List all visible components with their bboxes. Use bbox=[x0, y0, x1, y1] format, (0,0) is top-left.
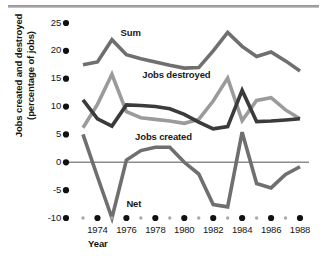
series-lines bbox=[83, 32, 300, 218]
series-label-jobs-created: Jobs created bbox=[135, 131, 192, 142]
x-axis-title: Year bbox=[88, 238, 108, 249]
y-tick-dot bbox=[63, 159, 69, 165]
x-tick-label: 1982 bbox=[197, 224, 229, 235]
x-tick-label: 1974 bbox=[81, 224, 113, 235]
y-tick-dot bbox=[63, 48, 69, 54]
y-axis-tick-dots bbox=[63, 20, 69, 221]
y-tick-dot bbox=[63, 131, 69, 137]
y-tick-label: 15 bbox=[35, 72, 61, 83]
x-tick-dot-major bbox=[94, 215, 100, 221]
series-label-sum: Sum bbox=[121, 27, 141, 38]
x-tick-dot-major bbox=[152, 215, 158, 221]
x-tick-dot-minor bbox=[168, 216, 171, 219]
series-label-jobs-destroyed: Jobs destroyed bbox=[142, 69, 210, 80]
y-axis-title-line2: (percentage of jobs) bbox=[24, 0, 36, 164]
x-tick-dot-major bbox=[268, 215, 274, 221]
y-tick-dot bbox=[63, 187, 69, 193]
x-tick-dot-minor bbox=[139, 216, 142, 219]
y-axis-title-line1: Jobs created and destroyed bbox=[13, 0, 25, 164]
x-tick-label: 1986 bbox=[255, 224, 287, 235]
y-tick-label: 20 bbox=[35, 44, 61, 55]
x-tick-dot-major bbox=[210, 215, 216, 221]
y-tick-label: 10 bbox=[35, 100, 61, 111]
y-tick-dot bbox=[63, 76, 69, 82]
x-tick-label: 1984 bbox=[226, 224, 258, 235]
series-line-net bbox=[83, 132, 300, 218]
y-axis-title: Jobs created and destroyed (percentage o… bbox=[13, 0, 36, 164]
x-axis-tick-dots bbox=[81, 215, 303, 221]
y-tick-label: 0 bbox=[35, 156, 61, 167]
x-tick-dot-major bbox=[297, 215, 303, 221]
x-tick-dot-minor bbox=[255, 216, 258, 219]
x-tick-label: 1988 bbox=[284, 224, 316, 235]
y-tick-label: -5 bbox=[35, 184, 61, 195]
chart-root: 2520151050-5-10 197419761978198019821984… bbox=[0, 0, 327, 259]
x-tick-dot-minor bbox=[110, 216, 113, 219]
x-tick-dot-minor bbox=[197, 216, 200, 219]
x-tick-dot-minor bbox=[81, 216, 84, 219]
x-tick-dot-minor bbox=[226, 216, 229, 219]
x-tick-dot-major bbox=[123, 215, 129, 221]
x-tick-label: 1978 bbox=[139, 224, 171, 235]
series-label-net: Net bbox=[126, 198, 141, 209]
x-tick-label: 1980 bbox=[168, 224, 200, 235]
y-tick-label: -10 bbox=[35, 212, 61, 223]
x-tick-dot-minor bbox=[284, 216, 287, 219]
x-tick-dot-major bbox=[181, 215, 187, 221]
y-tick-dot bbox=[63, 215, 69, 221]
y-tick-label: 25 bbox=[35, 17, 61, 28]
y-tick-label: 5 bbox=[35, 128, 61, 139]
series-line-sum bbox=[83, 32, 300, 70]
y-tick-dot bbox=[63, 20, 69, 26]
y-tick-dot bbox=[63, 103, 69, 109]
x-tick-label: 1976 bbox=[110, 224, 142, 235]
x-tick-dot-major bbox=[239, 215, 245, 221]
